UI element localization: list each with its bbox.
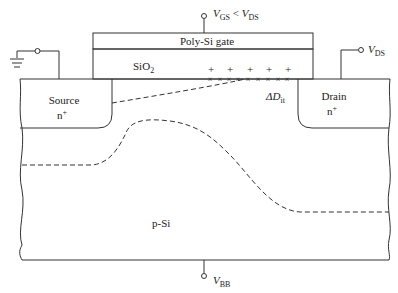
svg-text:+: + xyxy=(247,63,253,75)
drain-doping-label: n+ xyxy=(327,104,338,117)
svg-text:×: × xyxy=(218,75,223,84)
svg-text:×: × xyxy=(236,75,241,84)
svg-text:×: × xyxy=(256,75,261,84)
source-label: Source xyxy=(49,94,80,106)
drain-terminal-icon xyxy=(359,48,364,53)
fixed-charges: + + + + + xyxy=(208,63,291,75)
drain-region xyxy=(298,79,389,128)
left-break-edge xyxy=(20,79,23,260)
svg-text:×: × xyxy=(208,75,213,84)
substrate-voltage-label: VBB xyxy=(213,274,230,289)
svg-text:×: × xyxy=(276,75,281,84)
interface-trap-crosses: × × × × × × × × × xyxy=(208,75,290,84)
substrate-terminal-icon xyxy=(202,274,207,279)
substrate-label: p-Si xyxy=(152,217,170,229)
gate-voltage-label: VGS < VDS xyxy=(213,7,259,22)
svg-text:×: × xyxy=(285,75,290,84)
svg-text:+: + xyxy=(266,63,272,75)
ground-icon xyxy=(10,59,24,67)
svg-text:+: + xyxy=(208,63,214,75)
source-terminal-icon xyxy=(35,49,40,54)
svg-text:×: × xyxy=(266,75,271,84)
source-doping-label: n+ xyxy=(57,108,68,121)
interface-trap-label: ΔDit xyxy=(265,90,286,105)
right-break-edge xyxy=(388,79,390,260)
depletion-boundary-dashed xyxy=(22,120,389,212)
gate-terminal-icon xyxy=(202,14,207,19)
svg-text:+: + xyxy=(285,63,291,75)
poly-si-gate-label: Poly-Si gate xyxy=(180,35,234,47)
svg-text:+: + xyxy=(227,63,233,75)
channel-edge-dashed xyxy=(112,79,245,103)
svg-text:×: × xyxy=(227,75,232,84)
mosfet-diagram: + + + + + × × × × × × × × × Poly-Si gate… xyxy=(0,0,398,293)
drain-label: Drain xyxy=(321,90,347,102)
oxide-label: SiO2 xyxy=(133,60,154,75)
svg-text:×: × xyxy=(246,75,251,84)
drain-voltage-label: VDS xyxy=(368,43,385,58)
